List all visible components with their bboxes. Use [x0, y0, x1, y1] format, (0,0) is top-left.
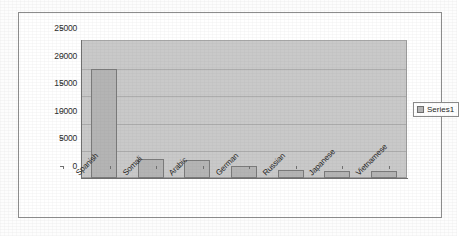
x-tick-mark [296, 166, 297, 169]
chart-frame: 2500020000150001000050000 SpanishSomaliA… [18, 12, 442, 218]
x-tick-mark [389, 166, 390, 169]
bar-vietnamese [371, 171, 397, 178]
y-tick-label: 5000 [43, 134, 77, 142]
y-tick-label: 0 [43, 162, 77, 170]
legend-label-series1: Series1 [427, 105, 454, 114]
legend-swatch-icon [417, 106, 424, 113]
x-axis-line [81, 178, 408, 179]
bar-german [231, 166, 257, 178]
chart-legend: Series1 [413, 102, 459, 117]
y-tick-label: 10000 [43, 107, 77, 115]
y-tick-label: 15000 [43, 79, 77, 87]
x-tick-mark [110, 166, 111, 169]
y-tick-label: 25000 [43, 24, 77, 32]
x-tick-mark [156, 166, 157, 169]
y-tick-label: 20000 [43, 52, 77, 60]
bar-japanese [324, 171, 350, 178]
x-tick-mark [203, 166, 204, 169]
x-tick-mark [342, 166, 343, 169]
bar-series-group [81, 40, 407, 178]
bar-russian [278, 170, 304, 178]
x-tick-mark [249, 166, 250, 169]
x-tick-mark [63, 166, 64, 169]
y-axis-tick-labels: 2500020000150001000050000 [37, 13, 77, 219]
bar-arabic [184, 160, 210, 178]
